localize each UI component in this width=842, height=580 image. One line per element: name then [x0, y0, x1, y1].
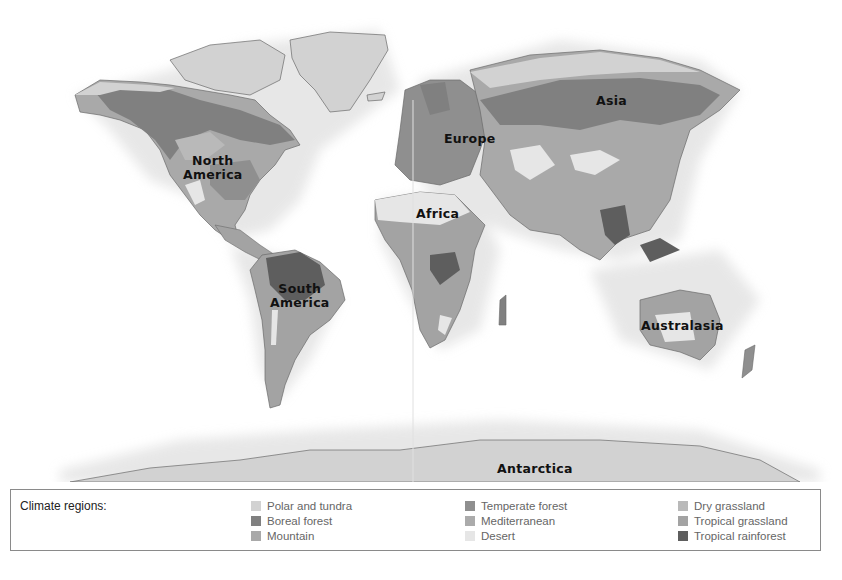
legend-item-dry-grassland: Dry grassland	[678, 498, 788, 513]
legend-label: Polar and tundra	[267, 500, 352, 512]
legend-label: Tropical grassland	[694, 515, 788, 527]
legend-label: Desert	[481, 530, 515, 542]
label-africa: Africa	[416, 207, 459, 221]
swatch-polar-tundra	[251, 501, 261, 511]
swatch-temperate-forest	[465, 501, 475, 511]
label-antarctica: Antarctica	[497, 462, 573, 476]
label-australasia: Australasia	[641, 319, 724, 333]
label-europe: Europe	[444, 132, 495, 146]
swatch-mediterranean	[465, 516, 475, 526]
legend-item-mediterranean: Mediterranean	[465, 513, 567, 528]
legend-title: Climate regions:	[20, 499, 107, 513]
label-asia: Asia	[596, 94, 627, 108]
legend-column-3: Dry grassland Tropical grassland Tropica…	[678, 498, 788, 543]
label-south-america-line2: America	[270, 296, 330, 310]
swatch-mountain	[251, 531, 261, 541]
legend-item-tropical-grassland: Tropical grassland	[678, 513, 788, 528]
swatch-boreal-forest	[251, 516, 261, 526]
swatch-dry-grassland	[678, 501, 688, 511]
legend-item-tropical-rainforest: Tropical rainforest	[678, 528, 788, 543]
legend-label: Tropical rainforest	[694, 530, 786, 542]
legend: Climate regions: Polar and tundra Boreal…	[10, 489, 821, 551]
label-south-america: South America	[270, 282, 330, 310]
legend-item-desert: Desert	[465, 528, 567, 543]
legend-item-boreal-forest: Boreal forest	[251, 513, 352, 528]
label-north-america: North America	[183, 154, 243, 182]
legend-item-mountain: Mountain	[251, 528, 352, 543]
legend-label: Mountain	[267, 530, 314, 542]
legend-column-1: Polar and tundra Boreal forest Mountain	[251, 498, 352, 543]
label-north-america-line1: North	[183, 154, 243, 168]
legend-label: Dry grassland	[694, 500, 765, 512]
legend-column-2: Temperate forest Mediterranean Desert	[465, 498, 567, 543]
world-climate-map: North America South America Europe Asia …	[0, 0, 842, 482]
legend-label: Temperate forest	[481, 500, 567, 512]
swatch-tropical-rainforest	[678, 531, 688, 541]
label-south-america-line1: South	[270, 282, 330, 296]
label-north-america-line2: America	[183, 168, 243, 182]
legend-item-polar-tundra: Polar and tundra	[251, 498, 352, 513]
map-graphic	[0, 0, 842, 482]
swatch-tropical-grassland	[678, 516, 688, 526]
legend-label: Mediterranean	[481, 515, 555, 527]
swatch-desert	[465, 531, 475, 541]
legend-label: Boreal forest	[267, 515, 332, 527]
legend-item-temperate-forest: Temperate forest	[465, 498, 567, 513]
